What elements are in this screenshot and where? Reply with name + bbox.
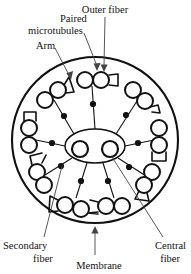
spoke-head-4 bbox=[126, 164, 132, 170]
tubule-1a bbox=[77, 72, 93, 88]
label-paired-microtubules-line2: microtubules bbox=[28, 25, 83, 36]
tubule-3a bbox=[151, 120, 167, 136]
tubule-6a bbox=[57, 197, 73, 213]
central-fiber-right bbox=[102, 141, 118, 157]
central-fiber-left bbox=[72, 141, 88, 157]
spoke-head-3 bbox=[135, 140, 141, 146]
tubule-8b bbox=[21, 137, 37, 153]
tubule-7b bbox=[36, 177, 52, 193]
spoke-head-2 bbox=[123, 112, 129, 118]
tubule-3b bbox=[151, 137, 167, 153]
label-outer-fiber: Outer fiber bbox=[82, 4, 129, 15]
label-central-fiber-line2: fiber bbox=[160, 253, 180, 264]
spoke-head-1 bbox=[90, 101, 96, 107]
cilium-cross-section-diagram: Paired microtubules Outer fiber Arm Seco… bbox=[0, 0, 191, 274]
tubule-5b bbox=[114, 198, 130, 214]
spoke-head-6 bbox=[78, 178, 84, 184]
spoke-head-5 bbox=[105, 178, 111, 184]
label-secondary-fiber-line1: Secondary bbox=[3, 240, 48, 251]
label-membrane: Membrane bbox=[76, 260, 122, 271]
tubule-1b bbox=[93, 72, 109, 88]
figure-canvas: Paired microtubules Outer fiber Arm Seco… bbox=[0, 0, 191, 274]
spoke-head-8 bbox=[49, 140, 55, 146]
label-central-fiber-line1: Central bbox=[155, 240, 186, 251]
leader-arrow-membrane bbox=[91, 226, 98, 234]
tubule-6b bbox=[73, 201, 89, 217]
tubule-8a bbox=[21, 120, 37, 136]
label-arm: Arm bbox=[36, 40, 55, 51]
tubule-5a bbox=[98, 198, 114, 214]
spoke-head-9 bbox=[61, 113, 67, 119]
label-secondary-fiber-line2: fiber bbox=[33, 253, 53, 264]
